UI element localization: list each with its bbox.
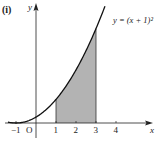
origin-label: O xyxy=(26,125,33,135)
panel-label: (i) xyxy=(2,4,11,16)
x-tick-label: 3 xyxy=(94,125,99,135)
x-tick-label: 1 xyxy=(54,125,59,135)
area-under-curve-chart: −11234 (i) y x O y = (x + 1)² xyxy=(0,0,155,144)
x-axis-label: x xyxy=(149,125,154,135)
x-tick-label: 2 xyxy=(74,125,79,135)
function-label: y = (x + 1)² xyxy=(112,15,153,25)
y-axis-label: y xyxy=(27,2,32,12)
x-tick-label: 4 xyxy=(114,125,119,135)
x-tick-label: −1 xyxy=(11,125,21,135)
